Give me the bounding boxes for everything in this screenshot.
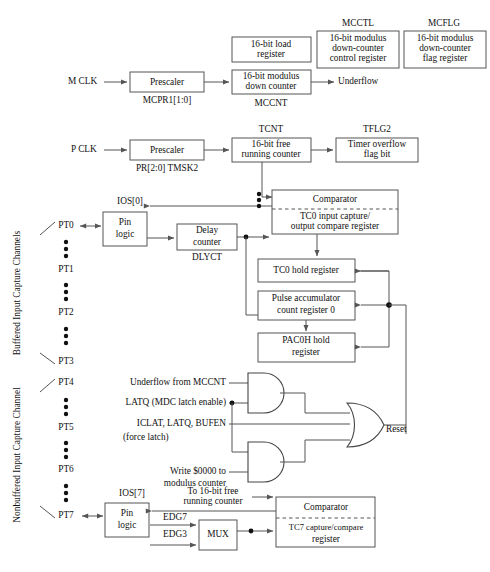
pin-label-pt0: PT0 (58, 220, 74, 230)
reset-label: Reset (386, 424, 407, 434)
pin-label-pt7: PT7 (58, 510, 74, 520)
load-register-line2: register (257, 49, 286, 59)
tc0-register-line2: output compare register (291, 221, 380, 231)
to-counter-line1: To 16-bit free (188, 486, 239, 496)
edg3-label: EDG3 (163, 529, 187, 539)
load-register-line1: 16-bit load (251, 39, 292, 49)
pac0h-line2: register (292, 347, 321, 357)
m-clk-label: M CLK (68, 76, 97, 86)
tflg2-line2: flag bit (364, 149, 391, 159)
pin-ellipsis-4-5 (64, 398, 68, 416)
latq-branch-to-and2 (232, 403, 248, 452)
tc7-register-line2: register (312, 534, 341, 544)
pin-ellipsis-6-7 (64, 484, 68, 502)
bus-dot (257, 204, 261, 208)
pin-label-pt3: PT3 (58, 356, 74, 366)
pin-label-pt6: PT6 (58, 464, 74, 474)
and1-input1-label: Underflow from MCCNT (130, 377, 226, 387)
tcnt-to-comparator (262, 162, 272, 197)
m-prescaler-label: Prescaler (150, 77, 185, 87)
tcnt-line2: running counter (241, 149, 301, 159)
pulse-accumulator-line1: Pulse accumulator (272, 293, 341, 303)
down-counter-line1: 16-bit modulus (243, 71, 300, 81)
reset-feedback-line (389, 305, 406, 434)
edg7-label: EDG7 (163, 512, 187, 522)
mcflg-line2: down-counter (419, 43, 472, 53)
pin-ellipsis-2-3 (64, 327, 68, 345)
mcctl-title: MCCTL (342, 18, 374, 28)
pin-ellipsis-5-6 (64, 441, 68, 459)
mcflg-line1: 16-bit modulus (417, 33, 474, 43)
bracket-leader-pt7 (40, 506, 55, 518)
p-prescaler-sublabel: PR[2:0] TMSK2 (136, 163, 198, 173)
tflg2-title: TFLG2 (363, 124, 391, 134)
or-mid-input-line2: (force latch) (123, 432, 169, 443)
pulse-accumulator-line2: count register 0 (277, 305, 335, 315)
mcflg-title: MCFLG (428, 18, 460, 28)
pin-label-pt2: PT2 (58, 307, 74, 317)
or-mid-input-line1: ICLAT, LATQ, BUFEN (137, 418, 226, 428)
pin-label-pt4: PT4 (58, 377, 74, 387)
p-prescaler-label: Prescaler (150, 145, 185, 155)
bus-dot (257, 198, 261, 202)
p-clk-label: P CLK (71, 144, 97, 154)
pin-label-pt5: PT5 (58, 422, 74, 432)
delay-counter-line1: Delay (196, 225, 219, 235)
junction-mux-output (249, 529, 254, 534)
bracket-leader-pt4 (40, 379, 55, 392)
bracket-leader-pt0 (40, 222, 55, 235)
pin-logic-7-line2: logic (118, 520, 137, 530)
pac0h-line1: PAC0H hold (282, 335, 330, 345)
tcnt-title: TCNT (259, 124, 284, 134)
latch-bus-to-tc0-hold (358, 271, 389, 305)
pin-logic-0-line1: Pin (119, 217, 132, 227)
mcctl-line1: 16-bit modulus (330, 33, 387, 43)
tcnt-line1: 16-bit free (252, 139, 291, 149)
tflg2-line1: Timer overflow (348, 139, 407, 149)
pin-logic-7-line1: Pin (121, 508, 134, 518)
mcctl-line3: control register (330, 53, 387, 63)
pin-label-pt1: PT1 (58, 264, 74, 274)
or-gate (347, 403, 384, 447)
mcflg-line3: flag register (423, 53, 469, 63)
mux-label: MUX (207, 529, 229, 539)
mccnt-sublabel: MCCNT (254, 98, 287, 108)
m-prescaler-sublabel: MCPR1[1:0] (143, 95, 192, 105)
timer-block-diagram: M CLK Prescaler MCPR1[1:0] 16-bit load r… (0, 0, 490, 572)
tc0-register-line1: TC0 input capture/ (300, 211, 371, 221)
pin-ellipsis-1-2 (64, 283, 68, 301)
and-gate-2 (248, 442, 284, 482)
dlyct-sublabel: DLYCT (192, 252, 222, 262)
diagram-canvas: M CLK Prescaler MCPR1[1:0] 16-bit load r… (0, 0, 490, 572)
tc7-register-line1: TC7 capture/compare (289, 522, 364, 532)
to-counter-line2: running counter (183, 496, 243, 506)
down-counter-line2: down counter (246, 81, 298, 91)
bus-dot (257, 192, 261, 196)
and-gate-1 (248, 373, 284, 413)
mcctl-line2: down-counter (332, 43, 385, 53)
comparator-7-label: Comparator (304, 502, 349, 512)
buffered-group-label: Buffered Input Capture Channels (12, 230, 22, 355)
and2-input-line1: Write $0000 to (170, 466, 226, 476)
nonbuffered-group-label: Nonbuffered Input Capture Channel (12, 387, 22, 523)
bracket-leader-pt3 (40, 353, 55, 364)
comparator-0-label: Comparator (313, 194, 358, 204)
pin-ellipsis-0-1 (64, 240, 68, 258)
and1-input2-label: LATQ (MDC latch enable) (126, 397, 226, 408)
underflow-label: Underflow (338, 76, 379, 86)
ios0-label: IOS[0] (117, 196, 143, 206)
ios7-label: IOS[7] (119, 488, 145, 498)
pin-logic-0-line2: logic (116, 229, 135, 239)
tc0-hold-register-label: TC0 hold register (273, 265, 339, 275)
delay-counter-line2: counter (193, 237, 222, 247)
